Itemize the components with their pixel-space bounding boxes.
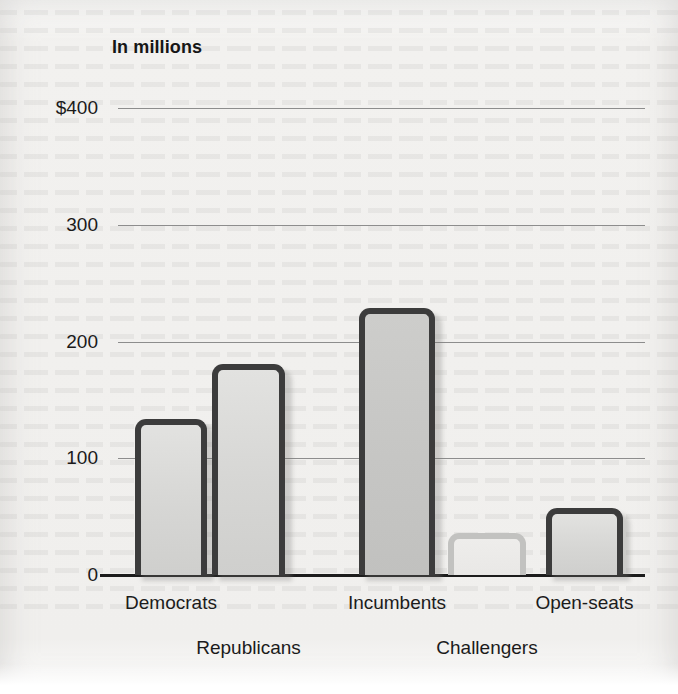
category-label-democrats: Democrats bbox=[125, 592, 217, 614]
y-axis-labels: $4003002001000 bbox=[0, 0, 98, 694]
bar-chart: In millions $4003002001000 DemocratsRepu… bbox=[0, 0, 678, 694]
y-tick-label: 0 bbox=[12, 564, 98, 586]
category-label-republicans: Republicans bbox=[196, 637, 301, 659]
bar-incumbents[interactable] bbox=[359, 308, 435, 575]
category-label-incumbents: Incumbents bbox=[348, 592, 446, 614]
y-tick-label: 100 bbox=[12, 447, 98, 469]
category-label-open-seats: Open-seats bbox=[535, 592, 633, 614]
y-tick-label: 200 bbox=[12, 331, 98, 353]
category-label-challengers: Challengers bbox=[436, 637, 537, 659]
bar-republicans[interactable] bbox=[212, 364, 285, 575]
bar-challengers[interactable] bbox=[448, 533, 526, 575]
bar-open-seats[interactable] bbox=[546, 508, 623, 575]
y-tick-label: 300 bbox=[12, 214, 98, 236]
gridline bbox=[118, 225, 645, 226]
gridline bbox=[118, 108, 645, 109]
y-tick-label: $400 bbox=[12, 97, 98, 119]
bar-democrats[interactable] bbox=[135, 419, 207, 575]
chart-title: In millions bbox=[112, 37, 202, 58]
chart-page: In millions $4003002001000 DemocratsRepu… bbox=[0, 0, 678, 694]
